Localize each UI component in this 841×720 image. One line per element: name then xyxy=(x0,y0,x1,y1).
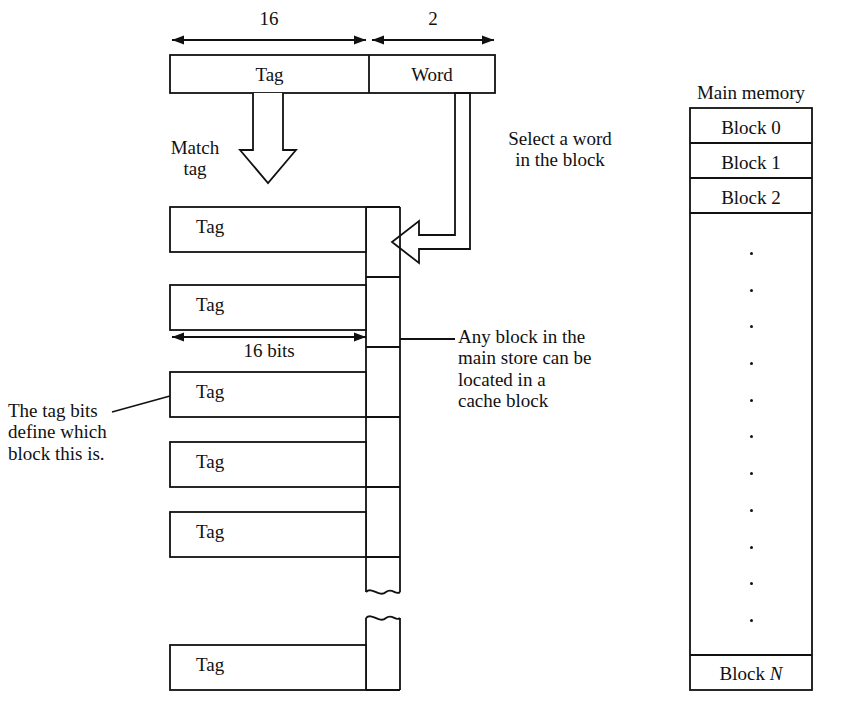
ellipsis-dot xyxy=(750,362,753,365)
dimension-arrow-word xyxy=(372,36,494,45)
ellipsis-dot xyxy=(750,435,753,438)
cache-mapping-diagram: 16 2 Tag Word Matchtag Select a wordin t… xyxy=(0,0,841,720)
main-memory-block-0: Block 0 xyxy=(690,117,812,138)
cache-data-column xyxy=(366,207,400,690)
main-memory-block-last-prefix: Block xyxy=(720,663,770,684)
cache-tag-width-label: 16 bits xyxy=(172,340,366,361)
cache-tag-label-4: Tag xyxy=(196,521,316,542)
ellipsis-dot xyxy=(750,325,753,328)
address-tag-field-label: Tag xyxy=(170,64,369,85)
main-memory-block-2: Block 2 xyxy=(690,187,812,208)
address-word-field-label: Word xyxy=(369,64,495,85)
select-word-label: Select a wordin the block xyxy=(485,128,635,171)
main-memory-title: Main memory xyxy=(690,82,812,103)
ellipsis-dot xyxy=(750,619,753,622)
main-memory-block-1: Block 1 xyxy=(690,152,812,173)
cache-tag-label-1: Tag xyxy=(196,294,316,315)
ellipsis-dot xyxy=(750,252,753,255)
cache-tag-label-5: Tag xyxy=(196,654,316,675)
cache-tag-label-3: Tag xyxy=(196,451,316,472)
ellipsis-dot xyxy=(750,472,753,475)
dimension-arrow-tag xyxy=(172,36,366,45)
ellipsis-dot xyxy=(750,546,753,549)
ellipsis-dot xyxy=(750,509,753,512)
cache-block-separators xyxy=(366,277,400,557)
word-field-width-label: 2 xyxy=(372,8,494,29)
main-memory-block-last: Block N xyxy=(690,663,812,684)
tag-bits-label: The tag bitsdefine whichblock this is. xyxy=(8,400,158,464)
ellipsis-dot xyxy=(750,289,753,292)
ellipsis-dot xyxy=(750,582,753,585)
main-memory-block-last-index: N xyxy=(770,663,783,684)
cache-tag-label-2: Tag xyxy=(196,381,316,402)
cache-tag-boxes xyxy=(170,207,366,690)
select-word-arrow xyxy=(392,93,470,263)
ellipsis-dot xyxy=(750,399,753,402)
diagram-vector-layer xyxy=(0,0,841,720)
match-tag-label: Matchtag xyxy=(150,137,240,180)
any-block-label: Any block in themain store can belocated… xyxy=(458,326,648,411)
cache-tag-label-0: Tag xyxy=(196,216,316,237)
tag-field-width-label: 16 xyxy=(172,8,366,29)
main-memory-ellipsis xyxy=(749,252,753,622)
match-tag-arrow xyxy=(240,93,296,183)
